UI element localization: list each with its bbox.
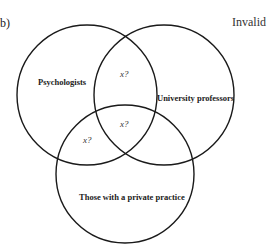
region-mark-all-three: x?: [119, 119, 129, 129]
venn-diagram: Psychologists University professors Thos…: [0, 0, 271, 248]
region-mark-psych-prof: x?: [119, 69, 129, 79]
set-label-private-practice: Those with a private practice: [79, 192, 185, 202]
set-label-psychologists: Psychologists: [38, 77, 87, 87]
region-mark-psych-practice: x?: [82, 135, 92, 145]
set-label-university-professors: University professors: [157, 93, 235, 103]
